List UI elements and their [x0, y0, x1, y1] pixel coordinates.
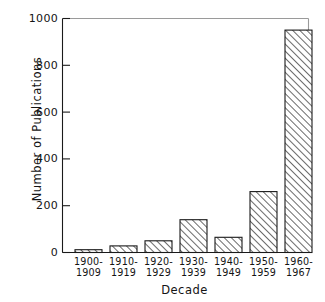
bar-chart-figure: Number of Publications 1000 800 600 400 … [0, 0, 325, 302]
y-axis-ticks [63, 19, 71, 253]
bar-1950-1959[interactable] [250, 192, 277, 253]
bar-1910-1919[interactable] [110, 246, 137, 253]
x-tick-label-1960-1967: 1960- 1967 [273, 256, 324, 278]
x-axis-title: Decade [62, 283, 307, 297]
bar-1920-1929[interactable] [145, 241, 172, 253]
bar-1930-1939[interactable] [180, 220, 207, 253]
bar-series [75, 30, 312, 252]
bar-1900-1909[interactable] [75, 250, 102, 253]
bar-1960-1967[interactable] [285, 30, 312, 252]
bar-1940-1949[interactable] [215, 237, 242, 252]
